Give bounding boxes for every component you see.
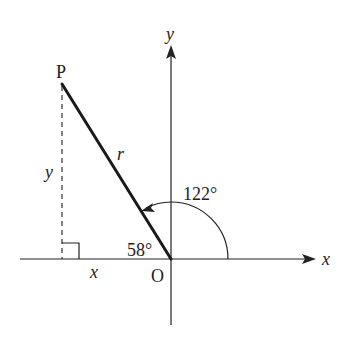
radius-label: r (117, 144, 125, 164)
y-axis (166, 45, 176, 325)
polar-angle-diagram: y x P r y x O 122° 58° (0, 0, 346, 337)
y-axis-label: y (164, 24, 174, 44)
right-angle-marker (62, 243, 79, 259)
angle-122-label: 122° (183, 184, 217, 204)
origin-label: O (151, 266, 164, 286)
radius-line-op (62, 84, 171, 259)
x-axis-label: x (321, 249, 330, 269)
point-p-label: P (56, 62, 66, 82)
horizontal-side-label: x (89, 262, 98, 282)
angle-58-label: 58° (127, 240, 152, 260)
angle-arc-122 (146, 202, 228, 259)
arc-arrow-icon (141, 203, 155, 212)
vertical-side-label: y (43, 162, 53, 182)
